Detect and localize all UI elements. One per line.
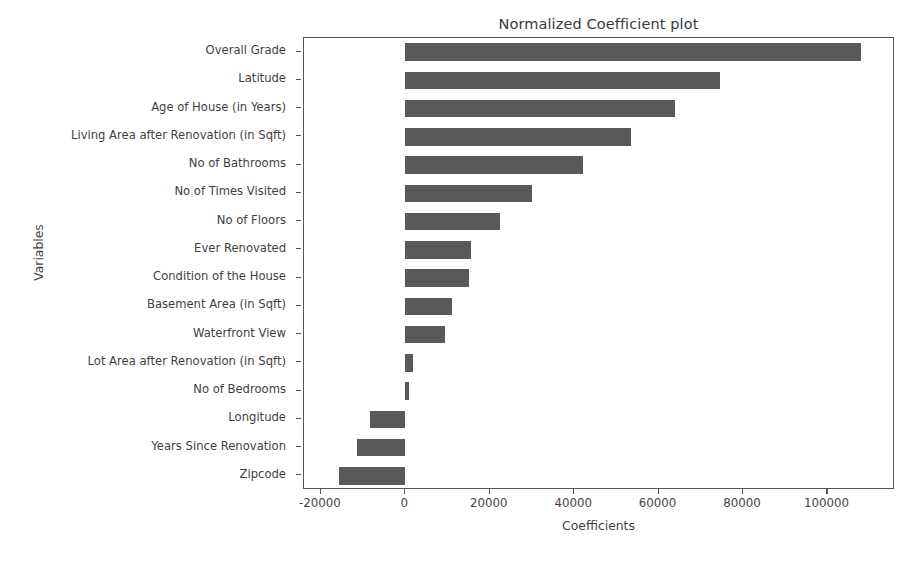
- y-tick-label: Waterfront View: [193, 328, 286, 340]
- x-tick-label: 0: [401, 496, 409, 510]
- bar-row: [304, 241, 893, 259]
- y-tick-label: Basement Area (in Sqft): [147, 300, 286, 312]
- y-tick-label: Longitude: [228, 413, 286, 425]
- bar: [405, 298, 451, 316]
- x-tick-mark: [742, 489, 743, 494]
- bar: [405, 72, 719, 90]
- y-tick-label: Lot Area after Renovation (in Sqft): [88, 356, 286, 368]
- y-tick-label: Age of House (in Years): [151, 102, 286, 114]
- bar: [405, 354, 413, 372]
- bar: [405, 241, 470, 259]
- bar-row: [304, 467, 893, 485]
- bar: [357, 439, 406, 457]
- bar: [405, 213, 500, 231]
- figure-canvas: Normalized Coefficient plot Variables Ov…: [0, 0, 924, 561]
- y-tick-mark: [296, 135, 301, 136]
- y-tick-label: No of Times Visited: [174, 187, 286, 199]
- y-tick-mark: [296, 446, 301, 447]
- x-tick-mark: [658, 489, 659, 494]
- plot-area: [303, 37, 894, 489]
- x-tick-mark: [573, 489, 574, 494]
- y-tick-label: No of Bathrooms: [189, 158, 286, 170]
- y-tick-mark: [296, 474, 301, 475]
- x-tick-label: 20000: [470, 496, 508, 510]
- bar: [405, 156, 582, 174]
- chart-title: Normalized Coefficient plot: [303, 16, 894, 32]
- y-tick-label: No of Floors: [217, 215, 286, 227]
- x-tick-label: 40000: [554, 496, 592, 510]
- bar-row: [304, 185, 893, 203]
- bar: [339, 467, 405, 485]
- bar-row: [304, 269, 893, 287]
- bar: [405, 128, 631, 146]
- y-tick-mark: [296, 220, 301, 221]
- y-tick-mark: [296, 277, 301, 278]
- bar: [405, 269, 468, 287]
- y-tick-label: No of Bedrooms: [193, 384, 286, 396]
- y-tick-mark: [296, 51, 301, 52]
- y-tick-mark: [296, 164, 301, 165]
- bar-row: [304, 439, 893, 457]
- x-tick-mark: [826, 489, 827, 494]
- bar-row: [304, 354, 893, 372]
- y-tick-mark: [296, 192, 301, 193]
- y-tick-mark: [296, 248, 301, 249]
- y-tick-mark: [296, 79, 301, 80]
- bar-row: [304, 382, 893, 400]
- x-tick-mark: [320, 489, 321, 494]
- bar-row: [304, 128, 893, 146]
- bars-layer: [304, 38, 893, 488]
- x-tick-label: -20000: [299, 496, 341, 510]
- bar-row: [304, 326, 893, 344]
- bar-row: [304, 72, 893, 90]
- y-tick-label: Years Since Renovation: [151, 441, 286, 453]
- x-tick-label: 100000: [804, 496, 849, 510]
- bar-row: [304, 43, 893, 61]
- x-tick-label: 60000: [639, 496, 677, 510]
- x-axis-label: Coefficients: [303, 518, 894, 533]
- bar: [405, 326, 445, 344]
- bar: [405, 43, 861, 61]
- y-tick-mark: [296, 361, 301, 362]
- y-tick-mark: [296, 418, 301, 419]
- y-tick-label: Condition of the House: [153, 271, 286, 283]
- y-tick-label: Ever Renovated: [194, 243, 286, 255]
- y-tick-mark: [296, 305, 301, 306]
- x-tick-mark: [404, 489, 405, 494]
- y-tick-label: Living Area after Renovation (in Sqft): [71, 130, 286, 142]
- y-tick-mark: [296, 107, 301, 108]
- bar-row: [304, 100, 893, 118]
- bar: [405, 185, 532, 203]
- bar: [405, 382, 408, 400]
- bar: [405, 100, 675, 118]
- bar-row: [304, 156, 893, 174]
- y-tick-mark: [296, 390, 301, 391]
- y-tick-label: Latitude: [238, 74, 286, 86]
- bar: [370, 411, 405, 429]
- y-tick-mark: [296, 333, 301, 334]
- x-tick-label: 80000: [723, 496, 761, 510]
- bar-row: [304, 298, 893, 316]
- x-tick-mark: [489, 489, 490, 494]
- bar-row: [304, 213, 893, 231]
- y-axis-tick-labels: Overall GradeLatitudeAge of House (in Ye…: [0, 37, 296, 489]
- bar-row: [304, 411, 893, 429]
- y-tick-label: Overall Grade: [206, 45, 286, 57]
- y-tick-label: Zipcode: [240, 469, 286, 481]
